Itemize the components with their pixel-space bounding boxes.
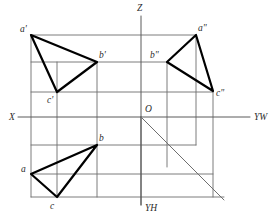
construction-lines-group: [31, 35, 224, 197]
forty-five-degree-mitre-line: [141, 117, 224, 200]
x-axis-label: X: [8, 112, 16, 122]
yw-axis-label: YW: [254, 112, 268, 122]
front-view-vertex-label-c: c': [47, 95, 54, 105]
z-axis-label: Z: [137, 3, 143, 13]
figure-canvas: ZXYWYHOa'b'c'a"b"c"abc: [0, 0, 278, 222]
front-view-vertex-label-b: b': [99, 50, 107, 60]
triangle-views-group: [31, 35, 213, 197]
top-view-vertex-label-a: a: [21, 164, 26, 174]
side-view-triangle: [167, 35, 213, 91]
yh-axis-label: YH: [145, 203, 158, 213]
top-view-vertex-label-c: c: [50, 201, 55, 211]
side-view-vertex-label-b: b": [150, 50, 160, 60]
top-view-vertex-label-b: b: [99, 133, 104, 143]
top-view-triangle: [31, 145, 97, 197]
front-view-vertex-label-a: a': [20, 24, 28, 34]
side-view-vertex-label-a: a": [198, 23, 208, 33]
origin-label: O: [145, 104, 152, 114]
side-view-vertex-label-c: c": [216, 88, 225, 98]
mitre-line-group: [141, 117, 224, 200]
front-view-triangle: [31, 35, 97, 92]
labels-group: ZXYWYHOa'b'c'a"b"c"abc: [8, 3, 268, 213]
orthographic-projection-drawing: ZXYWYHOa'b'c'a"b"c"abc: [0, 0, 278, 222]
